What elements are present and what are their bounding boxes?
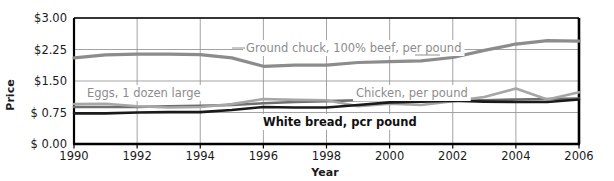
x-tick-label: 1990 <box>59 149 88 163</box>
y-tick-label: $3.00 <box>34 11 67 25</box>
annotation-label-eggs: Eggs, 1 dozen large <box>87 86 201 100</box>
annotation-label-white-bread: White bread, pcr pound <box>263 115 417 129</box>
y-tick-label: $ 0.75 <box>30 106 67 120</box>
y-tick-label: $1.50 <box>34 74 67 88</box>
x-tick-label: 2000 <box>375 149 404 163</box>
x-tick-label: 1996 <box>249 149 278 163</box>
x-tick-label: 1994 <box>186 149 215 163</box>
annotation-label-ground-chuck: Ground chuck, 100% beef, per pound <box>246 41 461 55</box>
x-tick-label: 2006 <box>564 149 593 163</box>
y-axis-title: Price <box>4 79 17 110</box>
annotation-label-chicken: Chicken, per pound <box>356 86 468 100</box>
chart-canvas: $ 0.00$ 0.75$1.50$2.25$3.00 199019921994… <box>0 0 614 181</box>
x-axis-title: Year <box>310 166 339 179</box>
x-tick-label: 2002 <box>438 149 467 163</box>
x-tick-label: 2004 <box>501 149 530 163</box>
price-line-chart: $ 0.00$ 0.75$1.50$2.25$3.00 199019921994… <box>0 0 614 181</box>
x-axis-tick-labels: 199019921994199619982000200220042006 <box>59 149 593 163</box>
x-tick-label: 1998 <box>312 149 341 163</box>
x-tick-label: 1992 <box>122 149 151 163</box>
y-tick-label: $2.25 <box>34 43 67 57</box>
